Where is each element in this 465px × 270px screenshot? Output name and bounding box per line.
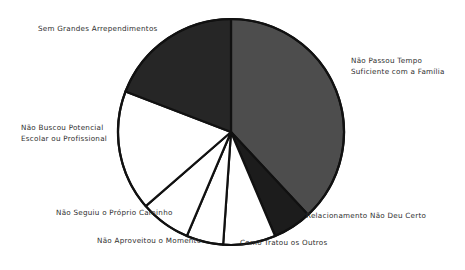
slice-label-potential-line2: Escolar ou Profissional	[21, 134, 107, 145]
slice-label-own-path: Não Seguiu o Próprio Caminho	[56, 208, 173, 219]
slice-label-potential: Não Buscou Potencial Escolar ou Profissi…	[21, 123, 107, 144]
slice-label-no-regrets: Sem Grandes Arrependimentos	[38, 24, 158, 35]
slice-label-no-regrets-line1: Sem Grandes Arrependimentos	[38, 24, 158, 35]
slice-label-relationship-line1: Relacionamento Não Deu Certo	[306, 211, 426, 222]
slice-label-family-line1: Não Passou Tempo	[351, 56, 445, 67]
slice-label-moment: Não Aproveitou o Momento	[97, 236, 201, 247]
slice-label-relationship: Relacionamento Não Deu Certo	[306, 211, 426, 222]
slice-label-potential-line1: Não Buscou Potencial	[21, 123, 107, 134]
slice-label-treated-others: Como Tratou os Outros	[240, 238, 328, 249]
slice-label-family: Não Passou Tempo Suficiente com a Famíli…	[351, 56, 445, 77]
slice-label-moment-line1: Não Aproveitou o Momento	[97, 236, 201, 247]
pie-chart: Sem Grandes Arrependimentos Não Passou T…	[0, 0, 465, 270]
slice-label-family-line2: Suficiente com a Família	[351, 67, 445, 78]
slice-label-treated-others-line1: Como Tratou os Outros	[240, 238, 328, 249]
slice-label-own-path-line1: Não Seguiu o Próprio Caminho	[56, 208, 173, 219]
